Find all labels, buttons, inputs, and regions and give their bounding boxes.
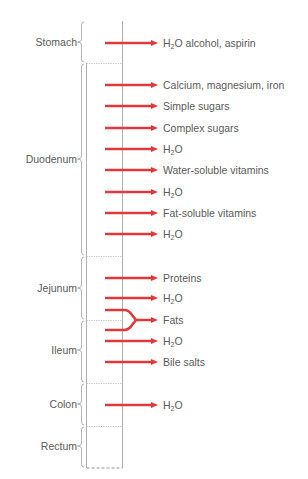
absorbed-substance-label: Fats [163,314,183,326]
absorbed-substance-label: H2O [163,186,183,202]
arrow-head-icon [151,40,158,46]
label-text: Simple sugars [163,100,230,112]
label-text: H [163,335,171,347]
segment-label-rectum: Rectum [41,440,77,452]
segment-brace [78,427,85,467]
absorbed-substance-label: Calcium, magnesium, iron [163,79,284,91]
arrow-head-icon [151,189,158,195]
label-text: Proteins [163,272,202,284]
absorption-diagram: Stomach Duodenum Jejunum Ileum Colon Rec… [0,0,308,479]
absorbed-substance-label: H2O [163,143,183,159]
absorbed-substance-label: H2O [163,335,183,351]
segment-brace [78,384,85,425]
label-text: Fats [163,314,183,326]
absorbed-substance-label: Fat-soluble vitamins [163,207,256,219]
arrow-head-icon [151,295,158,301]
forked-arrow-fats [105,310,152,330]
segment-brace [78,22,85,62]
segment-braces [78,22,85,467]
absorbed-substance-label: Bile salts [163,356,205,368]
segment-label-stomach: Stomach [36,36,77,48]
absorption-arrows [105,40,158,408]
label-text-rest: O [175,399,183,411]
absorbed-substance-label: Proteins [163,272,202,284]
arrow-head-icon [151,167,158,173]
label-text-rest: O [175,335,183,347]
tract-drawing [0,0,308,479]
arrow-head-icon [151,317,158,323]
segment-label-colon: Colon [50,398,77,410]
label-text: Complex sugars [163,122,239,134]
label-text-rest: O alcohol, aspirin [175,37,256,49]
label-text: H [163,399,171,411]
segment-label-ileum: Ileum [51,344,77,356]
segment-brace [78,64,85,255]
segment-brace [78,321,85,382]
absorbed-substance-label: H2O alcohol, aspirin [163,37,256,53]
arrow-head-icon [151,210,158,216]
segment-label-jejunum: Jejunum [37,282,77,294]
label-text-rest: O [175,292,183,304]
arrow-head-icon [151,359,158,365]
label-text: Fat-soluble vitamins [163,207,256,219]
label-text: H [163,228,171,240]
arrow-head-icon [151,402,158,408]
absorbed-substance-label: H2O [163,228,183,244]
arrow-head-icon [151,82,158,88]
arrow-head-icon [151,231,158,237]
label-text-rest: O [175,186,183,198]
segment-brace [78,257,85,319]
arrow-head-icon [151,338,158,344]
arrow-head-icon [151,146,158,152]
absorbed-substance-label: H2O [163,399,183,415]
absorbed-substance-label: Simple sugars [163,100,230,112]
label-text: Calcium, magnesium, iron [163,79,284,91]
arrow-head-icon [151,103,158,109]
segment-label-duodenum: Duodenum [26,153,77,165]
label-text: Water-soluble vitamins [163,164,269,176]
segment-boundaries [87,64,123,427]
label-text: Bile salts [163,356,205,368]
label-text: H [163,37,171,49]
label-text: H [163,143,171,155]
label-text: H [163,186,171,198]
absorbed-substance-label: Complex sugars [163,122,239,134]
label-text: H [163,292,171,304]
arrow-head-icon [151,125,158,131]
label-text-rest: O [175,143,183,155]
absorbed-substance-label: H2O [163,292,183,308]
arrow-head-icon [151,275,158,281]
label-text-rest: O [175,228,183,240]
absorbed-substance-label: Water-soluble vitamins [163,164,269,176]
